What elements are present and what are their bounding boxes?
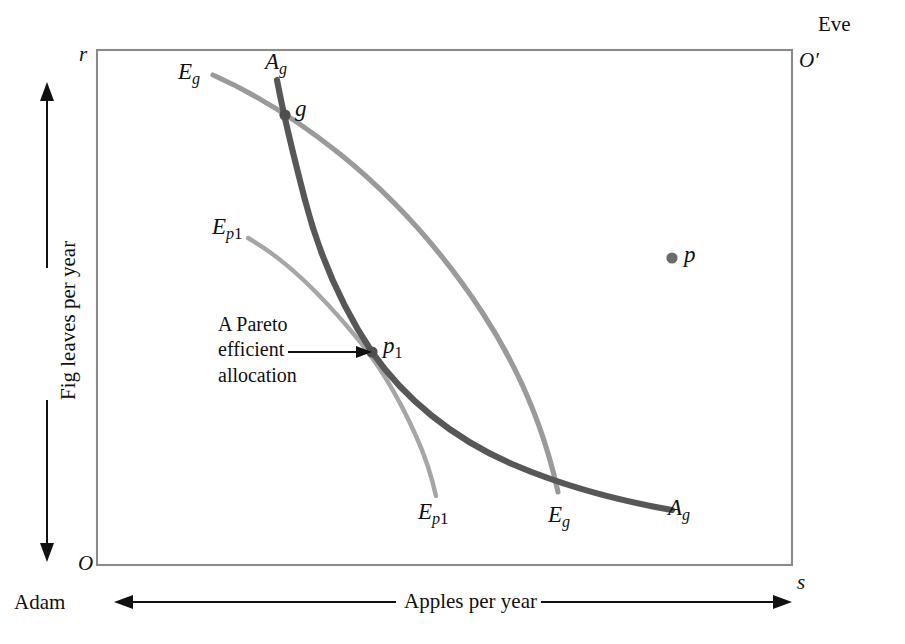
person-label-adam: Adam bbox=[14, 592, 65, 613]
point-label-p1-sub: 1 bbox=[395, 344, 403, 361]
corner-label-s: s bbox=[797, 572, 805, 593]
edgeworth-box-figure: r O′ O s Eve Adam Apples per year Fig le… bbox=[0, 0, 905, 644]
curve-label-Ep1-end: Ep1 bbox=[418, 500, 449, 527]
pareto-annotation-line-3: allocation bbox=[218, 363, 297, 388]
curve-label-Eg-end-sub: g bbox=[562, 513, 570, 530]
corner-label-r: r bbox=[79, 44, 87, 65]
curve-label-Ag-end-base: A bbox=[668, 495, 682, 520]
curve-label-Ag-end: Ag bbox=[668, 496, 690, 523]
curve-label-Eg-start: Eg bbox=[178, 60, 200, 87]
curve-label-Ag-start: Ag bbox=[265, 50, 287, 77]
curve-Ag bbox=[277, 80, 672, 510]
point-label-g: g bbox=[295, 97, 307, 120]
edgeworth-box-frame bbox=[97, 50, 792, 565]
curve-label-Ep1-start: Ep1 bbox=[212, 215, 243, 242]
diagram-canvas bbox=[0, 0, 905, 644]
curve-label-Eg-start-sub: g bbox=[192, 70, 200, 87]
curve-label-Ag-end-sub: g bbox=[682, 506, 690, 523]
pareto-annotation-line-2: efficient bbox=[218, 337, 297, 362]
point-marker-g bbox=[279, 109, 290, 120]
curve-label-Eg-end: Eg bbox=[548, 503, 570, 530]
x-axis-title: Apples per year bbox=[400, 591, 541, 612]
curve-Eg bbox=[213, 75, 558, 492]
curve-label-Ep1-start-sub: p bbox=[226, 225, 234, 242]
person-label-eve: Eve bbox=[818, 14, 851, 35]
curve-label-Ag-start-base: A bbox=[265, 49, 279, 74]
point-label-p1: p1 bbox=[383, 334, 403, 361]
curve-label-Ag-start-sub: g bbox=[279, 60, 287, 77]
pareto-callout-arrow bbox=[288, 346, 372, 358]
curve-label-Eg-end-base: E bbox=[548, 502, 562, 527]
point-marker-p bbox=[666, 252, 677, 263]
point-label-p1-base: p bbox=[383, 333, 395, 358]
y-axis-arrow bbox=[40, 82, 54, 562]
curve-label-Ep1-start-base: E bbox=[212, 214, 226, 239]
curve-label-Ep1-end-base: E bbox=[418, 499, 432, 524]
corner-label-o: O bbox=[78, 553, 93, 574]
pareto-annotation: A Pareto efficient allocation bbox=[218, 312, 297, 388]
corner-label-o-prime: O′ bbox=[799, 50, 819, 71]
y-axis-title: Fig leaves per year bbox=[56, 241, 81, 400]
curve-label-Ep1-end-subsub: 1 bbox=[440, 509, 449, 528]
curve-label-Eg-start-base: E bbox=[178, 59, 192, 84]
curve-label-Ep1-end-sub: p bbox=[432, 510, 440, 527]
curve-label-Ep1-start-subsub: 1 bbox=[234, 224, 243, 243]
pareto-annotation-line-1: A Pareto bbox=[218, 312, 297, 337]
point-label-p: p bbox=[684, 243, 696, 266]
